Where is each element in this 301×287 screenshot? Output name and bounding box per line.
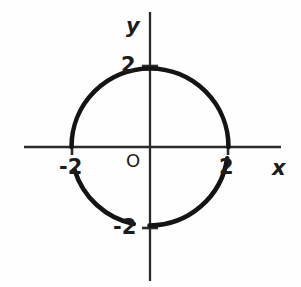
origin-label: O [126, 152, 140, 170]
circle-graph-figure: y x O 2 -2 -2 2 [0, 0, 301, 287]
y-tick-neg2-label: -2 [113, 217, 136, 238]
y-tick-2-label: 2 [121, 55, 136, 76]
x-tick-2-label: 2 [219, 157, 234, 178]
x-tick-neg2-label: -2 [59, 157, 82, 178]
y-axis-label: y [126, 16, 140, 37]
circle-arc-lower-right [150, 158, 228, 225]
x-axis-label: x [272, 158, 286, 179]
coordinate-plane-svg [0, 0, 301, 287]
